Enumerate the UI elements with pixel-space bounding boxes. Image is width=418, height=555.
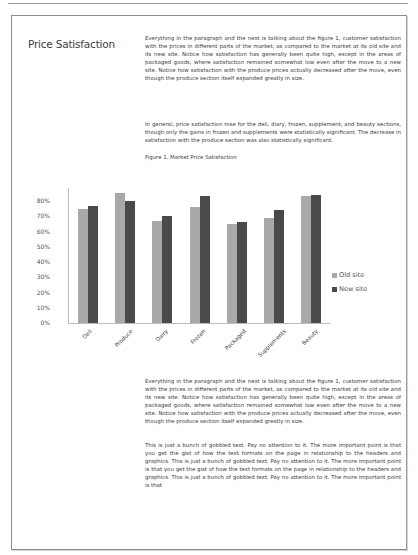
chart-legend: Old site New site xyxy=(332,268,367,296)
header-rule xyxy=(8,3,408,4)
y-axis xyxy=(68,188,69,323)
bar-deli-old-site xyxy=(78,209,88,323)
legend-item-old-site: Old site xyxy=(332,268,367,282)
bar-deli-new-site xyxy=(88,206,98,323)
y-tick-label: 50% xyxy=(20,243,50,250)
y-tick-label: 10% xyxy=(20,304,50,311)
bar-dairy-new-site xyxy=(162,216,172,323)
x-tick-label: Supplements xyxy=(257,328,287,358)
bar-packaged-old-site xyxy=(227,224,237,323)
bar-produce-new-site xyxy=(125,201,135,323)
y-tick-label: 40% xyxy=(20,258,50,265)
legend-label: New site xyxy=(339,285,367,293)
bar-packaged-new-site xyxy=(237,222,247,323)
x-tick-label: Frozen xyxy=(190,328,207,345)
y-tick-label: 20% xyxy=(20,289,50,296)
y-tick-label: 30% xyxy=(20,273,50,280)
y-tick-label: 70% xyxy=(20,212,50,219)
bar-beauty-old-site xyxy=(301,196,311,323)
x-axis xyxy=(68,323,330,324)
paragraph-1: Everything in the paragraph and the next… xyxy=(145,34,401,83)
bar-frozen-new-site xyxy=(200,196,210,323)
bar-beauty-new-site xyxy=(311,195,321,323)
x-tick-label: Packaged xyxy=(223,328,246,351)
document-page: Price Satisfaction Everything in the par… xyxy=(11,15,407,550)
bar-supplements-new-site xyxy=(274,210,284,323)
section-heading: Price Satisfaction xyxy=(28,38,115,50)
legend-item-new-site: New site xyxy=(332,282,367,296)
bar-frozen-old-site xyxy=(190,207,200,323)
old-site-swatch xyxy=(332,273,337,278)
bar-supplements-old-site xyxy=(264,218,274,323)
legend-label: Old site xyxy=(339,271,364,279)
y-tick-label: 80% xyxy=(20,197,50,204)
y-tick-label: 0% xyxy=(20,319,50,326)
x-tick-label: Produce xyxy=(114,328,134,348)
bar-dairy-old-site xyxy=(152,221,162,323)
paragraph-2: In general, price satisfaction rose for … xyxy=(145,120,401,144)
x-tick-label: Deli xyxy=(81,328,93,340)
paragraph-4: This is just a bunch of gobbled text. Pa… xyxy=(145,441,401,490)
new-site-swatch xyxy=(332,287,337,292)
bar-produce-old-site xyxy=(115,193,125,323)
y-tick-label: 60% xyxy=(20,228,50,235)
figure-caption: Figure 1. Market Price Satisfaction xyxy=(145,154,237,160)
paragraph-3: Everything in the paragraph and the next… xyxy=(145,377,401,426)
x-tick-label: Beauty xyxy=(301,328,319,346)
x-tick-label: Dairy xyxy=(154,328,169,343)
